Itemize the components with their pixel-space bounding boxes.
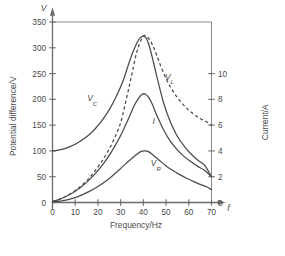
y-tick-label: 350 <box>32 18 46 27</box>
y2-tick-label: 0 <box>218 199 223 208</box>
x-tick-label: 60 <box>184 208 194 217</box>
y-tick-label: 200 <box>32 95 46 104</box>
y-axis-symbol: V <box>41 3 48 13</box>
x-axis-title: Frequency/Hz <box>110 220 162 230</box>
y2-tick-label: 4 <box>218 147 223 156</box>
y-axis-title: Potential difference/V <box>8 76 18 156</box>
x-tick-label: 40 <box>139 208 149 217</box>
y-axis-arrow <box>50 8 55 16</box>
y-tick-label: 0 <box>41 199 46 208</box>
x-tick-label: 30 <box>116 208 126 217</box>
plot-frame <box>53 22 212 203</box>
curve-v-l <box>53 35 212 201</box>
y2-axis-title: Current/A <box>260 104 270 140</box>
y2-tick-label: 6 <box>218 121 223 130</box>
y-tick-label: 250 <box>32 70 46 79</box>
y-tick-label: 100 <box>32 147 46 156</box>
y2-tick-label: 2 <box>218 173 223 182</box>
y-tick-label: 150 <box>32 121 46 130</box>
y-tick-label: 300 <box>32 44 46 53</box>
curve-labels: VCVLIVR <box>87 72 174 171</box>
plot-axes <box>50 8 226 209</box>
plot-frame-line <box>53 22 212 203</box>
curve-label-v-l: VL <box>165 72 174 85</box>
axis-titles: Potential difference/VCurrent/AFrequency… <box>8 3 270 230</box>
x-tick-label: 70 <box>207 208 217 217</box>
x-tick-label: 50 <box>162 208 172 217</box>
y2-tick-label: 8 <box>218 95 223 104</box>
y-tick-label: 50 <box>37 173 47 182</box>
x-tick-label: 10 <box>71 208 81 217</box>
curve-v-c <box>53 36 212 176</box>
x-tick-label: 0 <box>50 208 55 217</box>
chart-figure: 0501001502002503003500246810010203040506… <box>0 0 285 256</box>
y2-tick-label: 10 <box>218 70 228 79</box>
curve-label-i: I <box>152 116 155 126</box>
axis-ticks <box>49 22 214 206</box>
resonance-curves-chart: 0501001502002503003500246810010203040506… <box>0 0 285 256</box>
curve-label-v-c: VC <box>87 93 98 106</box>
data-curves <box>53 35 212 202</box>
x-tick-label: 20 <box>93 208 103 217</box>
tick-labels: 0501001502002503003500246810010203040506… <box>32 18 227 217</box>
x-axis-symbol: f <box>227 203 231 213</box>
